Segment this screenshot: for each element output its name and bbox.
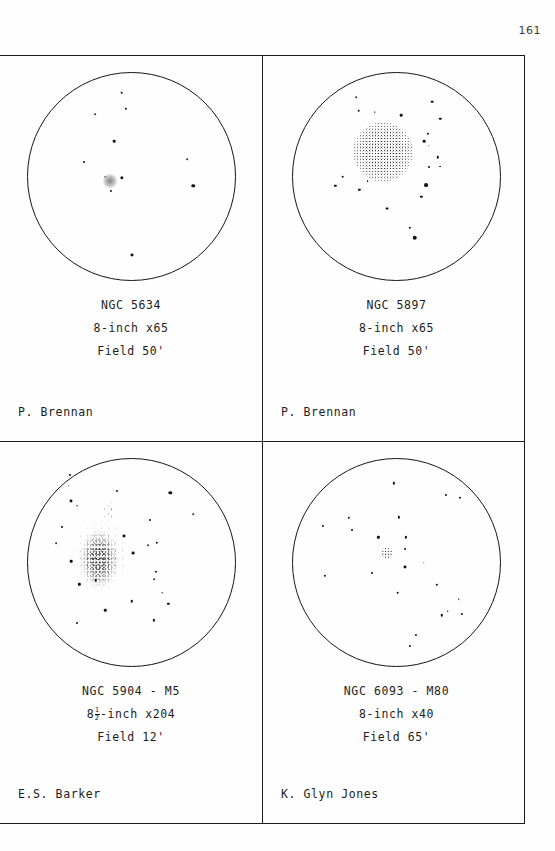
cluster-halo (101, 498, 117, 524)
field-star (423, 562, 425, 564)
eyepiece-field-circle (27, 72, 236, 281)
field-star (358, 109, 361, 112)
aperture-whole: 8 (87, 707, 95, 721)
field-star (404, 548, 406, 550)
observer-name: P. Brennan (281, 405, 356, 419)
stippled-nebulosity (353, 122, 413, 182)
field-star (191, 184, 195, 188)
field-star (69, 473, 71, 475)
fraction-numerator: 1 (95, 707, 100, 714)
field-of-view: Field 65' (269, 726, 524, 749)
fraction-denominator: 2 (95, 714, 100, 722)
field-of-view: Field 12' (0, 726, 262, 749)
field-star (436, 584, 438, 586)
field-star (440, 614, 442, 616)
field-star (120, 176, 123, 179)
field-star (424, 183, 428, 187)
field-star (400, 114, 403, 117)
page-number: 161 (519, 24, 542, 37)
field-star (324, 575, 326, 577)
field-star (153, 578, 155, 580)
field-star (69, 500, 72, 503)
field-star (61, 526, 63, 528)
field-star (131, 254, 134, 257)
field-star (167, 603, 169, 605)
field-star (445, 494, 447, 496)
panel-caption: NGC 5897 8-inch x65 Field 50' (263, 294, 524, 363)
field-star (70, 560, 73, 563)
field-star (334, 185, 336, 187)
observation-panel-ngc-5897: NGC 5897 8-inch x65 Field 50' P. Brennan (262, 56, 524, 441)
field-star (113, 140, 116, 143)
field-star (94, 114, 96, 116)
observer-name: P. Brennan (18, 405, 93, 419)
field-of-view: Field 50' (0, 340, 262, 363)
field-star (396, 591, 399, 594)
eyepiece-field-circle (292, 72, 501, 281)
field-star (409, 227, 411, 229)
observer-name: E.S. Barker (18, 787, 101, 801)
field-star (125, 108, 127, 110)
field-star (458, 599, 460, 601)
field-star (437, 156, 439, 158)
object-designation: NGC 5897 (269, 294, 524, 317)
field-star (428, 166, 430, 168)
eyepiece-field-circle (27, 458, 236, 667)
page-sheet: 161 NGC 5634 8-inch x65 Field 50' P. Bre… (0, 0, 555, 851)
field-star (155, 571, 157, 573)
observation-grid: NGC 5634 8-inch x65 Field 50' P. Brennan… (0, 55, 525, 824)
field-star (192, 514, 194, 516)
aperture-suffix: -inch x204 (100, 707, 175, 721)
field-star (76, 621, 78, 623)
field-star (341, 175, 344, 178)
field-star (428, 145, 430, 147)
object-designation: NGC 5904 - M5 (0, 680, 262, 703)
eyepiece-field-wrap (0, 458, 262, 667)
field-star (322, 525, 324, 527)
field-star (161, 592, 163, 594)
field-star (461, 613, 463, 615)
object-designation: NGC 6093 - M80 (269, 680, 524, 703)
field-star (156, 542, 158, 544)
field-of-view: Field 50' (269, 340, 524, 363)
field-star (403, 565, 406, 568)
field-star (367, 180, 369, 182)
observation-panel-ngc-6093-m80: NGC 6093 - M80 8-inch x40 Field 65' K. G… (262, 441, 524, 823)
observation-panel-ngc-5634: NGC 5634 8-inch x65 Field 50' P. Brennan (0, 56, 262, 441)
field-star (431, 100, 434, 103)
field-star (153, 619, 155, 621)
field-star (351, 529, 353, 531)
field-star (132, 552, 135, 555)
aperture-fraction: 12 (95, 707, 100, 722)
field-star (68, 485, 70, 487)
field-star (409, 645, 411, 647)
field-star (83, 161, 85, 163)
field-star (412, 235, 417, 240)
field-star (374, 112, 375, 113)
field-star (120, 91, 123, 94)
field-star (122, 534, 125, 537)
field-star (76, 505, 78, 507)
panel-caption: NGC 5904 - M5 812-inch x204 Field 12' (0, 680, 262, 749)
field-star (420, 196, 422, 198)
field-star (405, 536, 407, 538)
field-star (348, 517, 350, 519)
instrument-and-power: 8-inch x65 (269, 317, 524, 340)
field-star (426, 133, 428, 135)
field-star (56, 542, 58, 544)
field-star (397, 516, 399, 518)
eyepiece-field-wrap (263, 72, 524, 281)
field-star (94, 579, 97, 582)
field-star (371, 572, 373, 574)
field-star (147, 544, 149, 546)
field-star (377, 536, 379, 538)
observer-name: K. Glyn Jones (281, 787, 379, 801)
field-star (423, 140, 426, 143)
observation-panel-ngc-5904-m5: NGC 5904 - M5 812-inch x204 Field 12' E.… (0, 441, 262, 823)
field-star (110, 190, 112, 192)
field-star (169, 491, 172, 494)
field-star (415, 634, 417, 636)
object-designation: NGC 5634 (0, 294, 262, 317)
eyepiece-field-circle (292, 458, 501, 667)
eyepiece-field-wrap (263, 458, 524, 667)
